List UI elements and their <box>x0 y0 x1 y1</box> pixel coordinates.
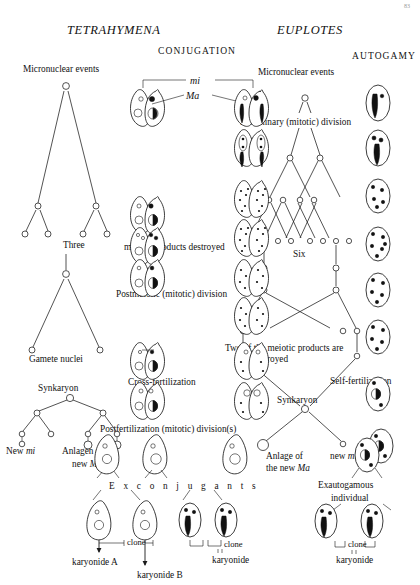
karyonide-cell-a <box>87 501 111 540</box>
nucleus-node <box>333 287 339 293</box>
new-micronucleus <box>340 441 346 447</box>
tetrahymena-lineage-tree <box>19 83 121 449</box>
nucleus-node <box>63 83 70 90</box>
macronucleus <box>134 109 142 117</box>
conjugant-pair-right-3 <box>235 220 269 257</box>
nucleus-node <box>35 203 41 209</box>
micronucleus-dark <box>380 94 384 98</box>
nucleus-node <box>288 238 293 243</box>
synkaryon-nucleus <box>66 394 73 401</box>
anlage-cell <box>223 435 247 474</box>
euplotes-karyonide-1 <box>315 504 337 538</box>
conjugant-pair-right-5 <box>235 298 269 335</box>
nucleus-node <box>307 238 312 243</box>
surviving-nucleus <box>354 353 360 359</box>
nucleus-node <box>22 231 28 237</box>
nucleus-node <box>287 155 293 161</box>
nucleus-node <box>63 271 70 278</box>
diagram-canvas <box>0 0 420 585</box>
micronucleus-spindle <box>239 135 247 151</box>
micronucleus <box>243 96 247 100</box>
micronucleus-spindle <box>257 135 265 151</box>
gamete-nucleus <box>97 347 103 353</box>
macronucleus-dot <box>149 96 154 101</box>
nucleus-node <box>297 197 303 203</box>
conjugant-pair-2 <box>235 130 269 167</box>
nucleus-node <box>340 328 346 334</box>
exconjugant-cell-1 <box>95 435 119 474</box>
euplotes-lineage-top <box>299 95 311 113</box>
nucleus-node <box>280 197 286 203</box>
gamete-nucleus <box>29 347 35 353</box>
nucleus-node <box>302 95 308 101</box>
nucleus-node <box>354 328 360 334</box>
exconjugant-karyonide-2 <box>215 503 237 537</box>
nucleus-node <box>85 431 91 437</box>
nucleus-node <box>45 231 51 237</box>
nucleus-node <box>346 238 351 243</box>
euplotes-cell-2 <box>366 130 390 166</box>
conjugant-pair-right-2 <box>235 181 269 218</box>
ma-anlage <box>84 441 92 449</box>
ma-anlage <box>258 440 269 451</box>
euplotes-cell-6 <box>366 320 390 354</box>
conjugant-pair-3 <box>131 197 165 234</box>
euplotes-cell-4 <box>366 227 390 261</box>
conjugant-pair-right-6 <box>235 343 269 380</box>
euplotes-cell-3 <box>366 179 390 213</box>
nucleus-node <box>80 231 86 237</box>
euplotes-karyonide-2 <box>361 504 383 538</box>
new-micronucleus <box>19 441 25 447</box>
nucleus-node <box>114 431 120 437</box>
nucleus-node <box>311 197 317 203</box>
exconjugant-cell-2 <box>143 435 167 474</box>
micronucleus-dark <box>254 96 259 101</box>
euplotes-cell-5 <box>366 273 390 307</box>
nucleus-node <box>93 203 99 209</box>
nucleus-node <box>333 265 339 271</box>
nucleus-node <box>19 431 25 437</box>
exautogamous-individual-cell <box>355 438 379 472</box>
conjugant-pair-5 <box>131 260 165 297</box>
figure-page: 83 TETRAHYMENA EUPLOTES CONJUGATION AUTO… <box>0 0 420 585</box>
exconjugant-karyonide-1 <box>179 503 201 537</box>
conjugant-pair-right-1 <box>235 90 269 127</box>
conjugant-pair-6 <box>131 343 165 380</box>
synkaryon-nucleus <box>301 405 308 412</box>
conjugant-pair-right-4 <box>235 260 269 297</box>
nucleus-node <box>275 238 280 243</box>
nucleus-node <box>320 238 325 243</box>
nucleus-node <box>100 410 106 416</box>
nucleus-node <box>104 231 110 237</box>
conjugant-pair-7 <box>131 383 165 420</box>
nucleus-node <box>34 410 40 416</box>
conjugant-pair-right-7 <box>235 383 269 420</box>
nucleus-node <box>317 155 323 161</box>
karyonide-cell-b <box>133 501 157 540</box>
nucleus-node <box>48 431 54 437</box>
conjugant-pair-4 <box>131 228 165 265</box>
conjugant-pair-1 <box>131 90 165 127</box>
euplotes-cell-7 <box>366 377 390 411</box>
nucleus-node <box>333 238 338 243</box>
euplotes-cell-initial <box>366 85 390 121</box>
micronucleus <box>139 97 143 101</box>
